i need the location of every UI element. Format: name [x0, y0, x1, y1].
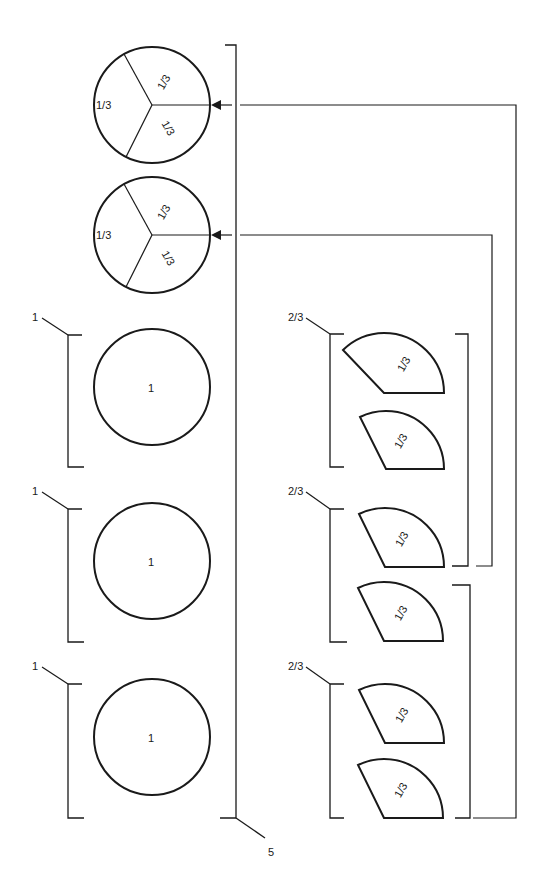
total-label: 5: [268, 846, 274, 858]
piece-label: 1/3: [392, 780, 410, 799]
circle-label: 1: [148, 556, 154, 568]
connector-arrow-2: [211, 230, 492, 566]
group-label: 2/3: [288, 660, 303, 672]
piece-label: 1/3: [392, 431, 410, 450]
slice-label: 1/3: [159, 248, 177, 267]
circle-label: 1: [148, 382, 154, 394]
piece-label: 1/3: [392, 603, 410, 622]
slice-label: 1/3: [155, 72, 173, 91]
piece-label: 1/3: [393, 529, 411, 548]
group-label: 1: [32, 311, 38, 323]
total-bracket: [220, 45, 265, 838]
slice-label: 1/3: [96, 99, 111, 111]
thirds-circle-2: [94, 177, 210, 293]
whole-group-1: [42, 318, 210, 467]
slice-label: 1/3: [96, 229, 111, 241]
two-thirds-group-3: [306, 667, 444, 818]
arrowhead-icon: [211, 100, 221, 110]
piece-label: 1/3: [393, 705, 411, 724]
circle-label: 1: [148, 732, 154, 744]
piece-label: 1/3: [395, 354, 413, 373]
third-sector: [343, 333, 444, 393]
slice-label: 1/3: [155, 202, 173, 221]
whole-group-2: [42, 492, 210, 642]
whole-group-3: [42, 667, 210, 818]
group-label: 2/3: [288, 485, 303, 497]
group-label: 1: [32, 485, 38, 497]
slice-label: 1/3: [159, 118, 177, 137]
fraction-diagram: 5 1/3 1/3 1/3 1/3 1/3 1/3 1 1: [0, 0, 544, 872]
arrowhead-icon: [211, 230, 221, 240]
thirds-circle-1: [94, 47, 210, 163]
group-label: 1: [32, 660, 38, 672]
group-label: 2/3: [288, 311, 303, 323]
